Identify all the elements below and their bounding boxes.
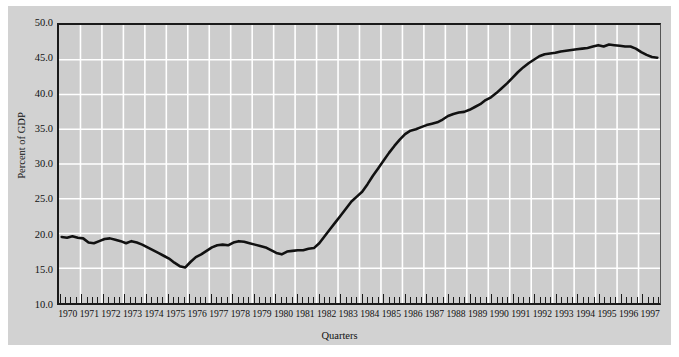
x-axis-year-label: 1974 — [144, 308, 163, 319]
y-axis-tick-label: 45.0 — [35, 53, 53, 64]
x-axis-tick-mark — [389, 297, 390, 305]
x-axis-tick-mark — [184, 297, 185, 305]
x-axis-tick-mark — [631, 297, 632, 305]
x-axis-tick-mark — [540, 297, 541, 305]
x-axis-tick-mark — [637, 297, 638, 305]
x-axis-tick-mark — [114, 297, 115, 305]
x-axis-tick-mark — [205, 297, 206, 305]
x-axis-year-label: 1985 — [382, 308, 401, 319]
x-axis-year-label: 1989 — [468, 308, 487, 319]
x-axis-tick-mark — [604, 297, 605, 305]
x-axis-tick-mark — [615, 297, 616, 305]
x-axis-tick-mark — [405, 294, 406, 305]
x-axis-year-label: 1990 — [490, 308, 509, 319]
x-axis-year-label: 1976 — [188, 308, 207, 319]
x-axis-tick-mark — [410, 297, 411, 305]
x-axis-tick-mark — [518, 297, 519, 305]
x-axis-tick-mark — [523, 297, 524, 305]
x-axis-tick-mark — [270, 297, 271, 305]
x-axis-tick-mark — [421, 297, 422, 305]
x-axis-tick-mark — [561, 297, 562, 305]
x-axis-tick-mark — [372, 297, 373, 305]
x-axis-tick-mark — [502, 297, 503, 305]
x-axis-tick-mark — [577, 294, 578, 305]
x-axis-tick-mark — [448, 294, 449, 305]
x-axis-year-label: 1996 — [619, 308, 638, 319]
x-axis-tick-mark — [480, 297, 481, 305]
x-axis-tick-labels: 1970197119721973197419751976197719781979… — [57, 308, 661, 324]
x-axis-year-label: 1975 — [166, 308, 185, 319]
x-axis-tick-mark — [146, 294, 147, 305]
x-axis-tick-mark — [572, 297, 573, 305]
x-axis-year-label: 1977 — [209, 308, 228, 319]
x-axis-tick-mark — [658, 297, 659, 305]
x-axis-tick-mark — [141, 297, 142, 305]
x-axis-tick-mark — [583, 297, 584, 305]
x-axis-tick-mark — [221, 297, 222, 305]
y-axis-title: Percent of GDP — [16, 86, 27, 206]
x-axis-year-label: 1972 — [101, 308, 120, 319]
x-axis-tick-mark — [292, 297, 293, 305]
x-axis-tick-mark — [130, 297, 131, 305]
x-axis-tick-mark — [189, 294, 190, 305]
x-axis-tick-mark — [534, 294, 535, 305]
x-axis-tick-mark — [124, 294, 125, 305]
data-line-series — [59, 25, 660, 303]
x-axis-tick-mark — [610, 297, 611, 305]
x-axis-year-label: 1991 — [511, 308, 530, 319]
x-axis-tick-mark — [491, 294, 492, 305]
x-axis-tick-mark — [211, 294, 212, 305]
x-axis-tick-mark — [453, 297, 454, 305]
x-axis-year-label: 1978 — [231, 308, 250, 319]
x-axis-tick-mark — [378, 297, 379, 305]
x-axis-tick-mark — [394, 297, 395, 305]
x-axis-tick-mark — [173, 297, 174, 305]
x-axis-tick-mark — [550, 297, 551, 305]
x-axis-tick-mark — [200, 297, 201, 305]
x-axis-tick-mark — [621, 294, 622, 305]
x-axis-tick-mark — [594, 297, 595, 305]
x-axis-tick-mark — [119, 297, 120, 305]
x-axis-tick-mark — [60, 294, 61, 305]
x-axis-year-label: 1970 — [58, 308, 77, 319]
y-axis-tick-label: 40.0 — [35, 89, 53, 100]
x-axis-tick-mark — [265, 297, 266, 305]
x-axis-tick-mark — [642, 294, 643, 305]
x-axis-tick-mark — [416, 297, 417, 305]
x-axis-tick-mark — [232, 294, 233, 305]
x-axis-tick-mark — [87, 297, 88, 305]
x-axis-title: Quarters — [0, 330, 679, 341]
x-axis-tick-mark — [70, 297, 71, 305]
y-axis-tick-label: 30.0 — [35, 159, 53, 170]
x-axis-tick-mark — [76, 297, 77, 305]
x-axis-tick-mark — [362, 294, 363, 305]
x-axis-tick-mark — [329, 297, 330, 305]
x-axis-year-label: 1979 — [252, 308, 271, 319]
x-axis-year-label: 1983 — [339, 308, 358, 319]
x-axis-year-label: 1984 — [360, 308, 379, 319]
x-axis-tick-mark — [443, 297, 444, 305]
x-axis-tick-mark — [168, 294, 169, 305]
x-axis-tick-mark — [335, 297, 336, 305]
x-axis-tick-mark — [92, 297, 93, 305]
x-axis-tick-mark — [497, 297, 498, 305]
x-axis-tick-mark — [340, 294, 341, 305]
x-axis-year-label: 1995 — [597, 308, 616, 319]
x-axis-tick-mark — [432, 297, 433, 305]
plot-area — [57, 23, 661, 305]
x-axis-year-label: 1980 — [274, 308, 293, 319]
x-axis-tick-mark — [648, 297, 649, 305]
x-axis-tick-mark — [281, 297, 282, 305]
x-axis-tick-mark — [351, 297, 352, 305]
x-axis-tick-mark — [470, 294, 471, 305]
x-axis-tick-mark — [556, 294, 557, 305]
x-axis-tick-mark — [475, 297, 476, 305]
x-axis-tick-mark — [243, 297, 244, 305]
x-axis-tick-mark — [313, 297, 314, 305]
x-axis-tick-mark — [626, 297, 627, 305]
x-axis-tick-marks — [57, 292, 661, 305]
x-axis-tick-mark — [507, 297, 508, 305]
x-axis-tick-mark — [426, 294, 427, 305]
x-axis-year-label: 1987 — [425, 308, 444, 319]
x-axis-tick-mark — [324, 297, 325, 305]
